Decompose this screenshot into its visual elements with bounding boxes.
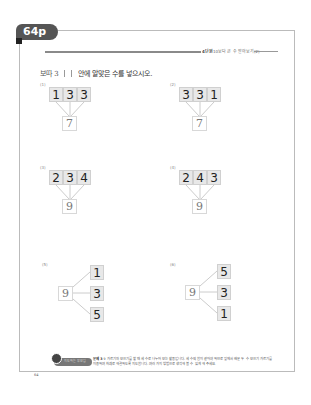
problem-3: (3) 2 3 4 9 [40,165,170,245]
problem-2: (2) 3 3 1 7 [170,82,300,162]
part-box: 1 [207,87,221,102]
blank-box-icon [64,70,72,77]
part-box: 1 [217,306,231,321]
question-number: 보따 3 [40,70,59,78]
guide-note-text: 9 가르기와 모으기를 할 때 세 수로 나누어 보는 활동입니다. 세 수의 … [93,357,272,366]
part-box: 4 [77,170,91,185]
tab-corner-decoration [16,38,22,44]
header-bar [45,51,201,53]
part-box: 1 [49,87,63,102]
part-box: 1 [90,265,104,280]
problem-1: (1) 1 3 3 7 [40,82,170,162]
header-subtitle: 10보다 큰 수 알아보기(2) [213,48,260,54]
header-chapter: 4단원 [202,48,213,54]
part-box: 3 [207,170,221,185]
guide-note: 문제 3 9 가르기와 모으기를 할 때 세 수로 나누어 보는 활동입니다. … [93,357,273,366]
part-box: 3 [63,87,77,102]
part-box: 3 [193,87,207,102]
part-box: 3 [90,286,104,301]
part-box: 3 [217,285,231,300]
part-box: 5 [217,264,231,279]
part-box: 3 [77,87,91,102]
total-box: 9 [58,286,73,301]
parent-guide-badge: 지도하는 부모님 [54,358,92,366]
part-box: 3 [179,87,193,102]
part-box: 2 [49,170,63,185]
problem-4: (4) 2 4 3 9 [170,165,300,245]
page-number: 64 [34,373,38,377]
part-box: 5 [90,307,104,322]
question-text: 안에 알맞은 수를 넣으시오. [78,70,153,78]
problem-6: (6) 9 5 3 1 [170,262,300,342]
part-box: 4 [193,170,207,185]
part-box: 3 [63,170,77,185]
question-heading: 보따 3안에 알맞은 수를 넣으시오. [40,68,153,78]
problem-5: (5) 9 1 3 5 [42,262,172,342]
total-box: 9 [62,199,77,214]
badge-label: 지도하는 부모님 [64,359,86,363]
total-box: 9 [192,199,207,214]
page-tab: 64p [16,24,58,40]
total-box: 7 [62,116,77,131]
connector-lines [42,262,172,342]
part-box: 2 [179,170,193,185]
total-box: 9 [185,285,200,300]
guide-note-label: 문제 3 [93,357,102,361]
person-icon [51,353,62,364]
connector-lines [170,262,300,342]
header-bar-end [254,51,278,52]
total-box: 7 [192,116,207,131]
